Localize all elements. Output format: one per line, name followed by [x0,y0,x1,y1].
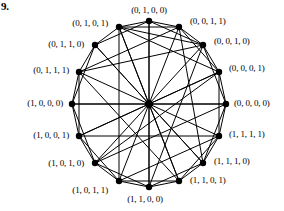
graph-vertex [76,133,82,139]
graph-vertex [116,178,122,184]
graph-vertex [200,42,206,48]
graph-edge [72,45,95,104]
center-hub-group [145,100,153,108]
hub-edge [95,104,149,163]
graph-vertex [92,160,98,166]
hub-edge [149,45,203,104]
graph-vertex [92,42,98,48]
graph-vertex [176,178,182,184]
graph-vertex [146,18,152,24]
vertex-label: (0, 0, 0, 1) [229,63,265,73]
graph-vertex [146,184,152,190]
graph-vertex [69,101,75,107]
vertex-label: (1, 1, 0, 1) [190,175,226,185]
vertex-label: (0, 1, 1, 0) [48,39,84,49]
figure-container: 9. (0, 1, 0, 0)(0, 0, 1, 1)(0, 0, 1, 0)(… [0,0,284,211]
vertex-label: (0, 0, 1, 0) [214,36,250,46]
vertex-label: (0, 1, 0, 0) [131,5,167,15]
center-hub-vertex [145,100,153,108]
graph-vertex [223,101,229,107]
graph-edge [119,21,149,27]
vertex-label: (1, 0, 0, 1) [33,130,69,140]
graph-edge [119,181,149,187]
graph-vertex [200,160,206,166]
vertex-label: (1, 0, 1, 1) [72,185,108,195]
vertex-label: (0, 1, 1, 1) [33,65,69,75]
vertex-label: (1, 1, 0, 0) [127,194,163,204]
graph-vertex [216,69,222,75]
vertex-label: (1, 1, 1, 1) [229,129,265,139]
graph-vertex [176,24,182,30]
graph-edge [149,181,179,187]
vertex-label: (1, 0, 1, 0) [48,158,84,168]
vertex-label: (1, 1, 1, 0) [214,156,250,166]
vertex-label: (1, 0, 0, 0) [27,98,63,108]
graph-edge [149,21,179,27]
vertex-label: (0, 0, 1, 1) [190,16,226,26]
graph-edge [95,163,149,187]
graph-vertex [116,24,122,30]
vertex-label: (0, 0, 0, 0) [234,98,270,108]
graph-vertex [76,69,82,75]
graph-vertex [216,133,222,139]
vertex-label: (0, 1, 0, 1) [72,18,108,28]
